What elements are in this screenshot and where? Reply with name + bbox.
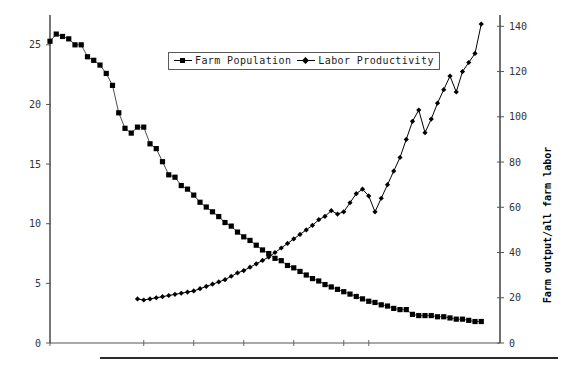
series-farm-population: [47, 31, 483, 324]
data-point-marker: [322, 282, 327, 287]
left-axis-tick-label: 15: [29, 159, 41, 170]
data-point-marker: [179, 291, 184, 296]
data-point-marker: [366, 299, 371, 304]
data-point-marker: [479, 319, 484, 324]
data-point-marker: [235, 229, 240, 234]
right-axis-tick-label: 20: [509, 292, 521, 303]
data-point-marker: [179, 183, 184, 188]
data-point-marker: [404, 307, 409, 312]
data-point-marker: [129, 130, 134, 135]
data-point-marker: [472, 319, 477, 324]
data-point-marker: [204, 204, 209, 209]
data-point-marker: [416, 107, 421, 112]
data-point-marker: [191, 193, 196, 198]
data-point-marker: [216, 214, 221, 219]
left-axis-tick-label: 10: [29, 218, 41, 229]
square-marker-icon: [174, 56, 192, 66]
data-point-marker: [85, 54, 90, 59]
data-point-marker: [379, 302, 384, 307]
data-point-marker: [397, 307, 402, 312]
data-point-marker: [454, 89, 459, 94]
data-point-marker: [91, 58, 96, 63]
data-point-marker: [104, 71, 109, 76]
legend-entry-labor-productivity: Labor Productivity: [297, 55, 434, 67]
data-point-marker: [97, 62, 102, 67]
data-point-marker: [135, 125, 140, 130]
data-point-marker: [454, 317, 459, 322]
data-point-marker: [329, 284, 334, 289]
data-point-marker: [435, 314, 440, 319]
data-point-marker: [291, 265, 296, 270]
data-point-marker: [372, 209, 377, 214]
data-point-marker: [241, 234, 246, 239]
data-point-marker: [441, 314, 446, 319]
chart-legend: Farm Population Labor Productivity: [168, 52, 440, 70]
data-point-marker: [385, 303, 390, 308]
data-point-marker: [166, 293, 171, 298]
legend-entry-farm-population: Farm Population: [174, 55, 291, 67]
data-point-marker: [429, 116, 434, 121]
data-point-marker: [216, 279, 221, 284]
data-point-marker: [172, 175, 177, 180]
data-point-marker: [272, 256, 277, 261]
data-point-marker: [154, 146, 159, 151]
data-point-marker: [347, 292, 352, 297]
data-point-marker: [160, 294, 165, 299]
data-point-marker: [141, 125, 146, 130]
data-point-marker: [66, 36, 71, 41]
data-point-marker: [229, 224, 234, 229]
data-point-marker: [247, 265, 252, 270]
data-point-marker: [141, 297, 146, 302]
right-axis-tick-label: 60: [509, 202, 521, 213]
data-point-marker: [260, 258, 265, 263]
data-point-marker: [422, 130, 427, 135]
data-point-marker: [54, 31, 59, 36]
legend-label-labor-productivity: Labor Productivity: [318, 55, 434, 67]
data-point-marker: [210, 282, 215, 287]
right-axis-tick-label: 0: [509, 338, 515, 349]
data-point-marker: [379, 196, 384, 201]
data-point-marker: [335, 211, 340, 216]
data-point-marker: [166, 172, 171, 177]
data-point-marker: [429, 313, 434, 318]
data-point-marker: [335, 287, 340, 292]
data-point-marker: [160, 159, 165, 164]
data-point-marker: [122, 126, 127, 131]
data-point-marker: [391, 306, 396, 311]
ticks-group: [46, 26, 504, 346]
data-point-marker: [460, 317, 465, 322]
data-point-marker: [185, 290, 190, 295]
left-axis-tick-label: 20: [29, 99, 41, 110]
bottom-divider-rule: [100, 357, 558, 359]
left-axis-tick-label: 0: [35, 338, 41, 349]
data-point-marker: [247, 238, 252, 243]
data-point-marker: [416, 313, 421, 318]
data-point-marker: [110, 83, 115, 88]
data-point-marker: [191, 288, 196, 293]
data-point-marker: [310, 276, 315, 281]
data-point-marker: [279, 258, 284, 263]
data-point-marker: [410, 119, 415, 124]
data-point-marker: [172, 292, 177, 297]
data-point-marker: [404, 137, 409, 142]
data-point-marker: [235, 270, 240, 275]
data-point-marker: [479, 21, 484, 26]
data-point-marker: [466, 318, 471, 323]
left-axis-tick-label: 25: [29, 39, 41, 50]
left-axis-tick-label: 5: [35, 278, 41, 289]
right-axis-tick-label: 140: [509, 21, 527, 32]
data-point-marker: [304, 272, 309, 277]
data-point-marker: [185, 187, 190, 192]
data-point-marker: [47, 39, 52, 44]
data-point-marker: [210, 209, 215, 214]
series-line: [50, 34, 481, 321]
legend-label-farm-population: Farm Population: [195, 55, 291, 67]
data-point-marker: [254, 261, 259, 266]
data-point-marker: [116, 110, 121, 115]
data-point-marker: [241, 268, 246, 273]
chart-container: 0510152025020406080100120140 Farm output…: [0, 0, 567, 370]
data-point-marker: [285, 263, 290, 268]
data-point-marker: [60, 34, 65, 39]
data-point-marker: [297, 269, 302, 274]
data-point-marker: [360, 296, 365, 301]
